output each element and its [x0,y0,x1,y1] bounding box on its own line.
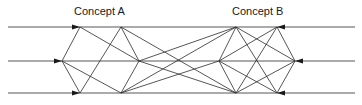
arrow-right-icon [54,59,62,64]
edge-a [62,27,80,61]
concept-a-label: Concept A [74,5,125,17]
concept-network-diagram: Concept A Concept B [0,0,362,105]
cross-edge [121,61,219,93]
concept-b-label: Concept B [232,5,283,17]
arrow-left-icon [295,59,303,64]
network-lines [0,0,362,105]
edge-a [80,27,121,93]
